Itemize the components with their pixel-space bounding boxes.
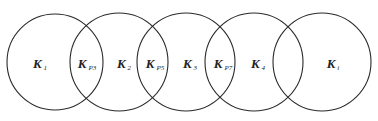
label-kp5: KP5 (146, 56, 164, 72)
label-kp7: KP7 (214, 56, 232, 72)
label-ki: Ki (327, 56, 340, 72)
label-kp3: KP3 (78, 56, 96, 72)
label-k1: K1 (33, 56, 47, 72)
label-k2: K2 (117, 56, 131, 72)
label-k4: K4 (251, 56, 265, 72)
label-k3: K3 (183, 56, 197, 72)
circle-ki (273, 13, 371, 111)
